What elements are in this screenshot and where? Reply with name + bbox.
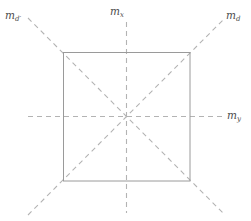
label-md-prime: md′	[5, 10, 21, 23]
label-my-base: m	[227, 109, 237, 121]
label-md-subscript: d	[236, 15, 240, 23]
label-mx: mx	[110, 6, 124, 19]
figure-canvas: md′ mx md my	[0, 0, 251, 221]
label-my-subscript: y	[237, 115, 241, 123]
label-md-prime-mark: ′	[19, 15, 21, 23]
label-md-base: m	[226, 9, 236, 21]
label-md: md	[226, 10, 240, 23]
diagram-svg	[0, 0, 251, 221]
label-my: my	[227, 110, 241, 123]
label-mx-subscript: x	[120, 11, 124, 19]
label-md-prime-base: m	[5, 9, 15, 21]
label-mx-base: m	[110, 5, 120, 17]
